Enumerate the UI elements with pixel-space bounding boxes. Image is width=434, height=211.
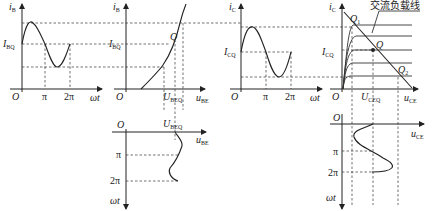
ic-axis-label: iC	[329, 1, 336, 13]
ibq-label: IBQ	[108, 38, 121, 50]
uce-axis-label: uCE	[411, 128, 424, 140]
origin-label: O	[332, 91, 339, 102]
ubeq-label: UBEQ	[163, 118, 183, 130]
panel-ib-time: iB IBQ O π 2π ωt	[2, 1, 242, 103]
wt-label: ωt	[90, 92, 100, 103]
ube-sine-wave	[169, 132, 182, 181]
ibq-label: IBQ	[2, 38, 15, 50]
wt-label: ωt	[326, 192, 336, 203]
q1-label: Q1	[350, 13, 360, 25]
tick-pi: π	[42, 91, 47, 102]
icq-label: ICQ	[321, 46, 334, 58]
origin-label: O	[12, 91, 19, 102]
origin-label: O	[117, 119, 124, 130]
amplifier-waveform-diagram: iB IBQ O π 2π ωt iB IBQ Q O UBEQ uBE O U…	[0, 0, 434, 211]
q-label: Q	[376, 39, 384, 50]
tick-pi: π	[333, 146, 338, 157]
wt-label: ωt	[310, 92, 320, 103]
uce-axis-label: uCE	[404, 92, 417, 104]
origin-label: O	[231, 91, 238, 102]
q-point-label: Q	[170, 31, 178, 42]
tick-2pi: 2π	[64, 91, 74, 102]
tick-2pi: 2π	[285, 91, 295, 102]
ib-axis-label: iB	[9, 1, 16, 13]
ic-axis-label: iC	[229, 1, 236, 13]
ube-axis-label: uBE	[196, 92, 209, 104]
origin-label: O	[333, 112, 340, 123]
tick-2pi: 2π	[110, 175, 120, 186]
ac-load-line-annotation: 交流负载线	[370, 0, 420, 11]
q2-label: Q2	[398, 64, 408, 76]
wt-label: ωt	[110, 195, 120, 206]
panel-ube-time: O UBEQ uBE π 2π ωt	[110, 118, 209, 209]
ib-sine-wave	[22, 22, 70, 67]
uceq-label: UCEQ	[361, 91, 381, 103]
tick-pi: π	[263, 91, 268, 102]
tick-pi: π	[116, 149, 121, 160]
origin-label: O	[116, 91, 123, 102]
ube-axis-label: uBE	[196, 134, 209, 146]
icq-label: ICQ	[223, 46, 236, 58]
panel-uce-time: O uCE π 2π ωt	[326, 112, 424, 209]
ubeq-label: UBEQ	[163, 91, 183, 103]
tick-2pi: 2π	[328, 167, 338, 178]
ib-axis-label: iB	[113, 1, 120, 13]
input-characteristic-curve	[141, 4, 186, 89]
